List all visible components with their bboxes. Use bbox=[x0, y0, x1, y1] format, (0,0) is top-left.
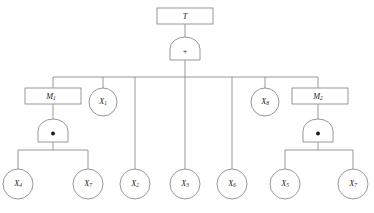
and-gate-g2-dot-icon bbox=[316, 132, 320, 136]
node-basic-event-X8[interactable]: X8 bbox=[251, 88, 279, 116]
fault-tree-diagram: T + M1 M2 bbox=[0, 0, 374, 213]
or-gate-G0[interactable]: + bbox=[170, 37, 200, 60]
node-basic-event-X4[interactable]: X4 bbox=[3, 169, 33, 199]
node-basic-event-X7a[interactable]: X7 bbox=[73, 169, 103, 199]
node-intermediate-M2[interactable]: M2 bbox=[292, 88, 348, 104]
and-gate-G1[interactable] bbox=[38, 119, 68, 142]
node-basic-event-X6[interactable]: X6 bbox=[217, 169, 247, 199]
and-gate-g2-shape bbox=[303, 119, 333, 142]
node-basic-event-X1[interactable]: X1 bbox=[89, 88, 117, 116]
node-basic-event-X2[interactable]: X2 bbox=[120, 169, 150, 199]
and-gate-G2[interactable] bbox=[303, 119, 333, 142]
node-basic-event-X7b[interactable]: X7 bbox=[338, 169, 368, 199]
and-gate-g1-dot-icon bbox=[51, 132, 55, 136]
or-gate-symbol: + bbox=[183, 47, 188, 56]
node-top-event-T[interactable]: T bbox=[157, 8, 213, 24]
and-gate-g1-shape bbox=[38, 119, 68, 142]
node-intermediate-M1[interactable]: M1 bbox=[25, 88, 81, 104]
node-basic-event-X5[interactable]: X5 bbox=[270, 169, 300, 199]
node-basic-event-X3[interactable]: X3 bbox=[170, 169, 200, 199]
